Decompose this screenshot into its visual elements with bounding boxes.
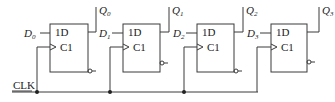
c-pin-label: C1 <box>207 41 220 53</box>
shift-register-diagram: CLK 1D C1 D0 Q0 1D C1 D1 Q1 1D C1 <box>0 0 335 102</box>
junction-dot <box>108 90 112 94</box>
clock-input-wire <box>184 47 197 92</box>
clock-input-wire <box>257 47 271 92</box>
q-output-wire <box>88 7 96 32</box>
c-pin-label: C1 <box>60 41 73 53</box>
q-output-label: Q0 <box>99 4 111 18</box>
c-pin-label: C1 <box>133 41 146 53</box>
flip-flop-3: 1D C1 D3 Q3 <box>246 4 334 92</box>
q-output-wire <box>160 7 169 32</box>
q-output-wire <box>234 7 243 32</box>
flip-flop-1: 1D C1 D1 Q1 <box>98 4 183 94</box>
inverted-output-bubble-icon <box>234 69 238 73</box>
d-pin-label: 1D <box>55 26 69 38</box>
inverted-output-bubble-icon <box>88 69 92 73</box>
d-pin-label: 1D <box>276 26 290 38</box>
d-input-label: D0 <box>23 27 36 41</box>
junction-dot <box>35 90 39 94</box>
clock-input-wire <box>37 47 50 92</box>
q-output-label: Q1 <box>172 4 183 18</box>
clock-input-wire <box>110 47 123 92</box>
q-output-wire <box>307 7 319 32</box>
d-pin-label: 1D <box>128 26 142 38</box>
d-input-label: D2 <box>172 27 185 41</box>
d-input-label: D3 <box>246 27 259 41</box>
q-output-label: Q2 <box>246 4 258 18</box>
inverted-output-bubble-icon <box>160 61 164 65</box>
d-pin-label: 1D <box>202 26 216 38</box>
d-input-label: D1 <box>98 27 110 41</box>
c-pin-label: C1 <box>281 41 294 53</box>
inverted-output-bubble-icon <box>307 60 311 64</box>
clock-label: CLK <box>13 79 35 91</box>
flip-flop-2: 1D C1 D2 Q2 <box>172 4 258 94</box>
flip-flop-0: 1D C1 D0 Q0 <box>23 4 111 94</box>
junction-dot <box>182 90 186 94</box>
q-output-label: Q3 <box>322 4 334 18</box>
